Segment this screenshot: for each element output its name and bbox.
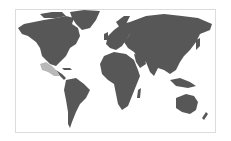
uk <box>104 32 108 40</box>
japan <box>196 38 200 50</box>
new-zealand <box>202 112 208 120</box>
south-america <box>64 78 90 128</box>
north-america <box>18 16 80 66</box>
world-map <box>0 0 231 141</box>
australia <box>176 94 198 114</box>
africa <box>100 52 140 110</box>
caribbean <box>62 68 72 70</box>
southeast-asia-islands <box>170 78 196 88</box>
madagascar <box>137 88 141 98</box>
